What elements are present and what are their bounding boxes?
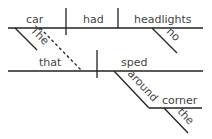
word-relative-subject: that bbox=[39, 56, 62, 69]
word-prepositional-object: corner bbox=[162, 94, 198, 107]
word-subject: car bbox=[26, 13, 44, 26]
word-preposition: around bbox=[125, 67, 161, 104]
sentence-diagram: car had headlights The no that sped arou… bbox=[0, 0, 212, 139]
word-verb: had bbox=[83, 13, 104, 26]
word-direct-object: headlights bbox=[134, 13, 192, 26]
